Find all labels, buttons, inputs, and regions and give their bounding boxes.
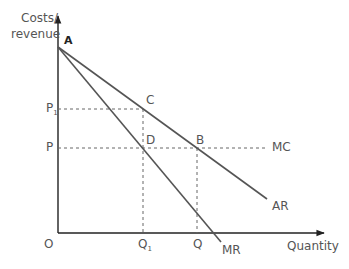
point-a-label: A <box>64 35 73 46</box>
point-d-label: D <box>146 134 155 146</box>
p-label: P <box>46 141 53 153</box>
ar-curve <box>58 47 267 199</box>
q1-subscript: 1 <box>147 245 151 253</box>
ar-label: AR <box>272 200 289 212</box>
y-axis-label-line2: revenue <box>11 28 60 40</box>
q-label: Q <box>193 238 202 250</box>
point-c-label: C <box>146 94 154 106</box>
origin-label: O <box>44 238 53 250</box>
y-axis-label-line1: Costs/ <box>21 12 58 24</box>
p1-subscript: 1 <box>53 109 57 117</box>
q1-label: Q1 <box>138 238 152 253</box>
x-axis-label: Quantity <box>287 240 339 252</box>
mr-label: MR <box>222 244 241 256</box>
p1-label: P1 <box>46 102 58 117</box>
mc-label: MC <box>272 141 291 153</box>
point-b-label: B <box>196 134 204 146</box>
